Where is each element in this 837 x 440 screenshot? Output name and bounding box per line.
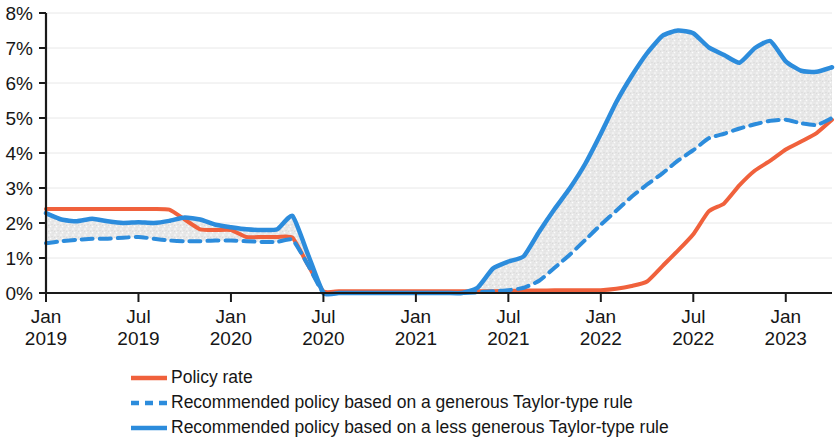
x-axis-tick-label-year: 2021: [487, 328, 529, 349]
x-axis-tick-label-group: Jan2021: [395, 306, 437, 349]
y-axis-tick-labels: 0%1%2%3%4%5%6%7%8%: [6, 3, 34, 304]
x-axis-tick-label-month: Jan: [770, 306, 801, 327]
series-line-policy-rate: [46, 120, 832, 292]
fill-band-between-taylor-rules: [46, 30, 832, 294]
x-axis-tick-label-group: Jul2021: [487, 306, 529, 349]
y-axis-tick-label: 1%: [6, 248, 34, 269]
x-axis-tick-label-year: 2021: [395, 328, 437, 349]
x-axis-tick-label-year: 2022: [580, 328, 622, 349]
x-axis-tick-label-year: 2022: [672, 328, 714, 349]
x-axis-tick-label-group: Jan2023: [765, 306, 807, 349]
x-axis-tick-label-group: Jul2019: [117, 306, 159, 349]
chart-container: 0%1%2%3%4%5%6%7%8% Jan2019Jul2019Jan2020…: [0, 0, 837, 440]
x-axis-tick-label-month: Jan: [31, 306, 62, 327]
x-axis-tick-label-month: Jul: [496, 306, 520, 327]
x-axis-tick-label-month: Jul: [311, 306, 335, 327]
y-axis-tick-label: 6%: [6, 73, 34, 94]
y-axis-tick-label: 3%: [6, 178, 34, 199]
x-axis-tick-label-month: Jul: [126, 306, 150, 327]
y-axis-tick-label: 5%: [6, 108, 34, 129]
y-axis-tick-label: 8%: [6, 3, 34, 24]
chart-legend: Policy rateRecommended policy based on a…: [131, 367, 669, 437]
legend-label: Recommended policy based on a less gener…: [171, 417, 669, 437]
legend-item: Policy rate: [131, 367, 253, 387]
x-axis-tick-label-month: Jan: [216, 306, 247, 327]
x-axis-tick-label-group: Jul2020: [302, 306, 344, 349]
x-axis-tick-label-month: Jan: [586, 306, 617, 327]
y-axis-tick-label: 0%: [6, 283, 34, 304]
x-axis-tick-label-group: Jan2020: [210, 306, 252, 349]
x-axis-tick-label-group: Jan2019: [25, 306, 67, 349]
x-axis-tick-label-month: Jul: [681, 306, 705, 327]
legend-label: Recommended policy based on a generous T…: [171, 392, 633, 412]
x-axis-tick-label-year: 2023: [765, 328, 807, 349]
x-axis-tick-label-year: 2020: [302, 328, 344, 349]
y-axis-tick-label: 4%: [6, 143, 34, 164]
y-axis-tick-label: 2%: [6, 213, 34, 234]
x-axis-tick-label-year: 2020: [210, 328, 252, 349]
line-chart: 0%1%2%3%4%5%6%7%8% Jan2019Jul2019Jan2020…: [0, 0, 837, 440]
taylor-rule-range-fill: [46, 30, 832, 294]
x-axis-tick-label-group: Jan2022: [580, 306, 622, 349]
x-axis-tick-label-month: Jan: [401, 306, 432, 327]
series-line-recommended-generous: [46, 118, 832, 294]
x-axis-tick-labels: Jan2019Jul2019Jan2020Jul2020Jan2021Jul20…: [25, 306, 807, 349]
y-axis-tick-label: 7%: [6, 38, 34, 59]
x-axis-tick-label-year: 2019: [25, 328, 67, 349]
x-axis-tick-label-group: Jul2022: [672, 306, 714, 349]
legend-label: Policy rate: [171, 367, 253, 387]
legend-item: Recommended policy based on a less gener…: [131, 417, 669, 437]
x-axis-tick-label-year: 2019: [117, 328, 159, 349]
legend-item: Recommended policy based on a generous T…: [131, 392, 633, 412]
